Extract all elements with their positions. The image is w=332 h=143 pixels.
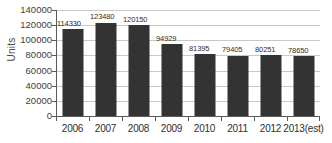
y-axis-tick-label: 120000	[0, 20, 52, 30]
y-axis-tick-label: 40000	[0, 81, 52, 91]
bar-slot: 80251	[254, 10, 287, 116]
x-axis-tick-mark	[254, 116, 255, 121]
y-axis-tick-label: 20000	[0, 96, 52, 106]
bar[interactable]	[128, 25, 149, 116]
y-axis-tick-label: 0	[0, 111, 52, 121]
bar-slot: 94929	[155, 10, 188, 116]
x-axis-tick-mark	[56, 116, 57, 121]
x-axis-tick-mark	[188, 116, 189, 121]
bar-slot: 123480	[89, 10, 122, 116]
x-axis-tick-mark	[89, 116, 90, 121]
x-axis-tick-label-group: 20062007200820092010201120122013(est)	[56, 123, 320, 139]
bar-slot: 78650	[287, 10, 320, 116]
bar[interactable]	[260, 55, 281, 116]
bar[interactable]	[161, 44, 182, 116]
bar-value-label: 94929	[156, 34, 176, 43]
x-axis-tick-mark	[122, 116, 123, 121]
bar[interactable]	[194, 54, 215, 116]
y-axis-tick-label: 60000	[0, 66, 52, 76]
x-axis-tick-mark	[319, 116, 320, 121]
plot-area: 1143301234801201509492981395794058025178…	[56, 10, 320, 116]
bar[interactable]	[62, 29, 83, 116]
bar-value-label: 81395	[189, 44, 209, 53]
bar-value-label: 114330	[57, 19, 81, 28]
bar[interactable]	[227, 56, 248, 116]
y-axis-tick-label: 100000	[0, 35, 52, 45]
bar-slot: 81395	[188, 10, 221, 116]
bar-value-label: 80251	[255, 45, 275, 54]
bar-slot: 114330	[56, 10, 89, 116]
bar[interactable]	[293, 56, 314, 116]
x-axis-tick-mark	[287, 116, 288, 121]
bar-chart: Units 0200004000060000800001000001200001…	[0, 0, 332, 143]
bar[interactable]	[95, 23, 116, 116]
y-axis-tick-label: 80000	[0, 50, 52, 60]
bars-layer: 1143301234801201509492981395794058025178…	[56, 10, 320, 116]
x-axis-tick-marks	[56, 116, 320, 121]
bar-slot: 79405	[221, 10, 254, 116]
bar-value-label: 120150	[123, 15, 147, 24]
bar-value-label: 123480	[90, 12, 114, 21]
y-axis-tick-label-group: 020000400006000080000100000120000140000	[0, 0, 52, 143]
bar-value-label: 78650	[288, 46, 308, 55]
y-axis-tick-label: 140000	[0, 5, 52, 15]
x-axis-tick-mark	[221, 116, 222, 121]
bar-slot: 120150	[122, 10, 155, 116]
x-axis-tick-mark	[155, 116, 156, 121]
bar-value-label: 79405	[222, 45, 242, 54]
x-axis-tick-label: 2013(est)	[281, 123, 326, 134]
